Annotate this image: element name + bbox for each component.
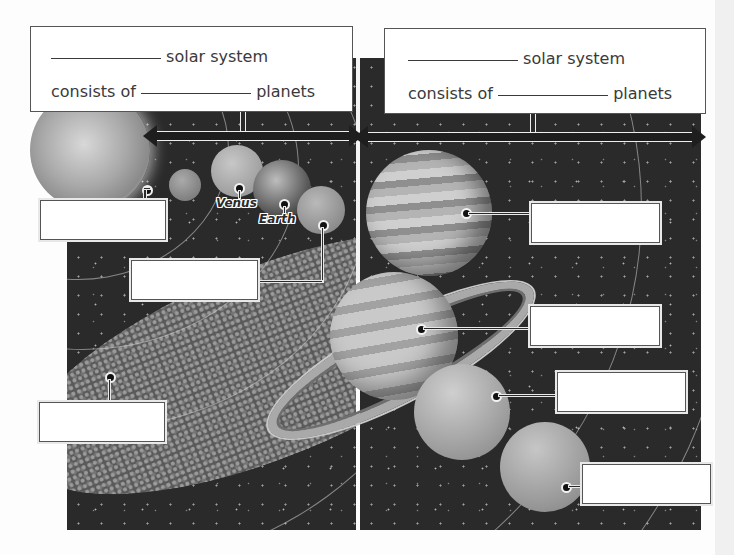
label-box-mars[interactable] — [131, 260, 258, 300]
mars-leader-line — [321, 227, 324, 283]
planet-uranus — [414, 364, 510, 460]
label-box-jupiter[interactable] — [531, 203, 660, 243]
label-box-neptune[interactable] — [582, 464, 711, 504]
label-earth: Earth — [259, 212, 296, 226]
header-text: consists of — [51, 82, 136, 101]
inner-planets-header: solar system consists of planets — [30, 26, 353, 112]
planet-neptune — [500, 422, 590, 512]
outer-planets-header: solar system consists of planets — [384, 28, 706, 114]
saturn-leader-line — [423, 327, 532, 330]
header-line-1: solar system — [408, 49, 625, 68]
fill-in-blank-system-name[interactable] — [51, 58, 161, 59]
header-text: planets — [256, 82, 315, 101]
outer-header-connector — [530, 114, 536, 133]
header-text: solar system — [523, 49, 625, 68]
label-box-mercury[interactable] — [40, 200, 166, 240]
fill-in-blank-planet-count[interactable] — [141, 93, 251, 94]
jupiter-leader-line — [468, 212, 533, 215]
planet-mercury — [169, 169, 201, 201]
uranus-leader-line — [498, 394, 559, 397]
header-line-2: consists of planets — [51, 82, 315, 101]
label-box-saturn[interactable] — [530, 306, 660, 346]
fill-in-blank-system-name[interactable] — [408, 60, 518, 61]
header-text: planets — [613, 84, 672, 103]
header-line-2: consists of planets — [408, 84, 672, 103]
header-text: consists of — [408, 84, 493, 103]
mercury-leader-line — [143, 187, 151, 190]
asteroid-belt-leader-line — [108, 379, 111, 404]
inner-header-connector — [240, 112, 246, 132]
outer-planets-span-arrow — [366, 132, 694, 142]
label-box-uranus[interactable] — [557, 372, 686, 412]
header-line-1: solar system — [51, 47, 268, 66]
inner-planets-span-arrow — [155, 131, 351, 141]
fill-in-blank-planet-count[interactable] — [498, 95, 608, 96]
header-text: solar system — [166, 47, 268, 66]
mars-leader-line — [258, 280, 323, 283]
page-edge — [715, 0, 734, 555]
inner-outer-divider — [356, 58, 360, 280]
label-venus: Venus — [216, 196, 257, 210]
label-box-asteroid-belt[interactable] — [39, 402, 165, 442]
